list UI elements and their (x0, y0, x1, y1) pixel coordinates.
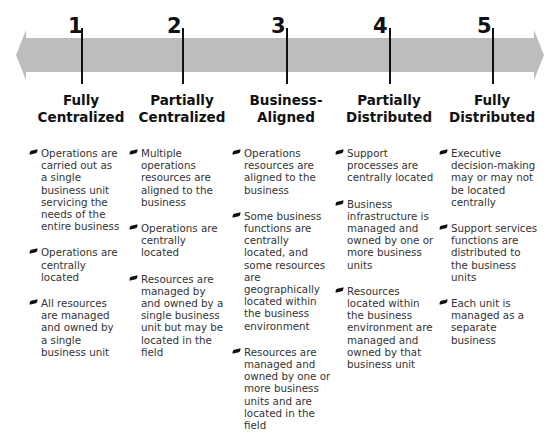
bullet-icon (29, 149, 37, 155)
bullet-icon (129, 224, 137, 230)
stage-title: Business- Aligned (231, 92, 341, 126)
stage-items: Multiple operations resources are aligne… (130, 147, 225, 372)
list-item: Support processes are centrally located (336, 147, 436, 184)
stage-marker (389, 28, 391, 84)
bullet-icon (439, 299, 447, 305)
stage-items: Operations are carried out as a single b… (30, 147, 120, 372)
stage-number: 2 (167, 14, 182, 38)
list-item: Resources are managed by and owned by a … (130, 273, 225, 358)
list-item: Some business functions are centrally lo… (233, 210, 333, 332)
stage-number: 3 (271, 14, 286, 38)
bullet-icon (232, 348, 240, 354)
stage-number: 4 (373, 14, 388, 38)
stage-title: Fully Distributed (437, 92, 547, 126)
stage-marker (492, 28, 494, 84)
list-item: Each unit is managed as a separate busin… (440, 297, 540, 346)
list-item: Operations resources are aligned to the … (233, 147, 333, 196)
bullet-icon (335, 287, 343, 293)
list-item: Business infrastructure is managed and o… (336, 198, 436, 271)
bullet-icon (335, 200, 343, 206)
stage-number: 5 (477, 14, 492, 38)
bullet-icon (232, 149, 240, 155)
list-item: All resources are managed and owned by a… (30, 297, 120, 358)
stage-marker (286, 28, 288, 84)
list-item: Support services functions are distribut… (440, 222, 540, 283)
bullet-icon (232, 212, 240, 218)
bullet-icon (129, 149, 137, 155)
list-item: Operations are carried out as a single b… (30, 147, 120, 232)
stage-title: Partially Distributed (334, 92, 444, 126)
list-item: Operations are centrally located (30, 246, 120, 283)
bullet-icon (439, 224, 447, 230)
list-item: Executive decision-making may or may not… (440, 147, 540, 208)
bullet-icon (29, 249, 37, 255)
stage-items: Executive decision-making may or may not… (440, 147, 540, 360)
stage-marker (182, 28, 184, 84)
bullet-icon (29, 299, 37, 305)
stage-title: Partially Centralized (127, 92, 237, 126)
bullet-icon (129, 275, 137, 281)
list-item: Multiple operations resources are aligne… (130, 147, 225, 208)
stage-items: Support processes are centrally located … (336, 147, 436, 384)
stage-marker (81, 28, 83, 84)
bullet-icon (335, 149, 343, 155)
stage-title: Fully Centralized (26, 92, 136, 126)
list-item: Operations are centrally located (130, 222, 225, 259)
bullet-icon (439, 149, 447, 155)
list-item: Resources located within the business en… (336, 285, 436, 370)
list-item: Resources are managed and owned by one o… (233, 346, 333, 431)
stage-items: Operations resources are aligned to the … (233, 147, 333, 433)
